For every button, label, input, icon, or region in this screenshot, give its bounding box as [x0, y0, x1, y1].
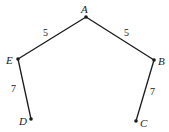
- edge-ae: [18, 17, 86, 59]
- graph-diagram: 5577 ABCDE: [0, 0, 169, 132]
- vertex-point-e: [16, 57, 20, 61]
- vertex-label-b: B: [158, 55, 165, 67]
- vertex-label-c: C: [140, 117, 148, 129]
- vertex-point-c: [134, 119, 138, 123]
- vertex-point-b: [152, 58, 156, 62]
- vertices-group: [16, 15, 156, 123]
- edge-weight-ab: 5: [124, 27, 129, 38]
- edge-ab: [86, 17, 154, 60]
- edge-ed: [18, 59, 31, 119]
- edge-weight-ed: 7: [11, 83, 16, 94]
- edge-weight-ae: 5: [43, 27, 48, 38]
- vertex-label-d: D: [18, 115, 27, 127]
- edges-group: [18, 17, 154, 121]
- vertex-point-a: [84, 15, 88, 19]
- vertex-label-e: E: [5, 54, 13, 66]
- edge-weights-group: 5577: [11, 27, 155, 97]
- vertex-label-a: A: [80, 3, 88, 15]
- edge-weight-bc: 7: [150, 86, 155, 97]
- vertex-point-d: [29, 117, 33, 121]
